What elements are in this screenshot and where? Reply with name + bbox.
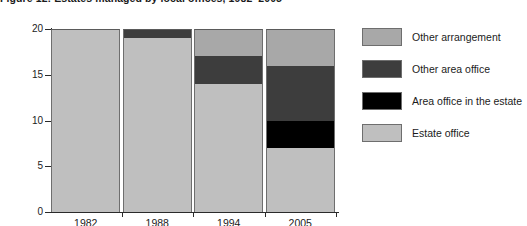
legend-swatch-icon: [362, 92, 402, 110]
bar-segment-1994-estate-office: [194, 84, 263, 212]
y-tick-label-text: 5: [3, 161, 43, 171]
x-tick-mark: [265, 212, 266, 217]
y-tick-mark: [45, 121, 51, 122]
x-tick-label-1982: 1982: [56, 217, 116, 226]
y-tick-label: 10: [0, 116, 43, 126]
bar-segment-1994-other-area-office: [194, 56, 263, 83]
legend-swatch-icon: [362, 124, 402, 142]
bar-1994: [194, 29, 263, 212]
y-tick-label-text: 0: [3, 207, 43, 217]
y-tick-label-text: 10: [3, 116, 43, 126]
x-tick-label-1988: 1988: [127, 217, 187, 226]
legend-item-other-arrangement[interactable]: Other arrangement: [362, 26, 524, 52]
legend: Other arrangementOther area officeArea o…: [362, 26, 524, 154]
x-tick-label-2005: 2005: [270, 217, 330, 226]
y-tick-label-text: 20: [3, 24, 43, 34]
x-tick-mark: [193, 212, 194, 217]
x-tick-mark: [122, 212, 123, 217]
y-tick-label: 20: [0, 24, 43, 34]
y-tick-label: 0: [0, 207, 43, 217]
plot-area: Number of estates: [52, 29, 338, 212]
legend-item-estate-office[interactable]: Estate office: [362, 122, 524, 148]
bar-2005: [266, 29, 335, 212]
bar-segment-1988-other-area-office: [123, 29, 192, 38]
figure-title: Figure 12: Estates managed by local offi…: [0, 0, 360, 8]
y-tick-label: 5: [0, 161, 43, 171]
y-tick-label-text: 15: [3, 70, 43, 80]
legend-label: Estate office: [412, 127, 470, 139]
y-tick-mark: [45, 29, 51, 30]
legend-label: Area office in the estate: [412, 95, 522, 107]
y-tick-label: 15: [0, 70, 43, 80]
y-tick-mark: [45, 166, 51, 167]
legend-label: Other area office: [412, 63, 490, 75]
y-tick-mark: [45, 75, 51, 76]
figure-container: Figure 12: Estates managed by local offi…: [0, 0, 527, 226]
bar-segment-2005-other-area-office: [266, 66, 335, 121]
bar-segment-2005-other-arrangement: [266, 29, 335, 66]
legend-item-area-office-in-the-estate[interactable]: Area office in the estate: [362, 90, 524, 116]
legend-swatch-icon: [362, 60, 402, 78]
bar-segment-1982-estate-office: [51, 29, 120, 212]
y-tick-mark: [45, 212, 51, 213]
bar-segment-2005-estate-office: [266, 148, 335, 212]
legend-swatch-icon: [362, 28, 402, 46]
x-tick-label-1994: 1994: [199, 217, 259, 226]
bar-1982: [51, 29, 120, 212]
x-tick-mark: [336, 212, 337, 217]
bar-segment-1988-estate-office: [123, 38, 192, 212]
bar-segment-1994-other-arrangement: [194, 29, 263, 56]
x-axis-line: [51, 212, 339, 213]
legend-item-other-area-office[interactable]: Other area office: [362, 58, 524, 84]
legend-label: Other arrangement: [412, 31, 501, 43]
bar-1988: [123, 29, 192, 212]
bar-segment-2005-area-office-in-the-estate: [266, 121, 335, 148]
